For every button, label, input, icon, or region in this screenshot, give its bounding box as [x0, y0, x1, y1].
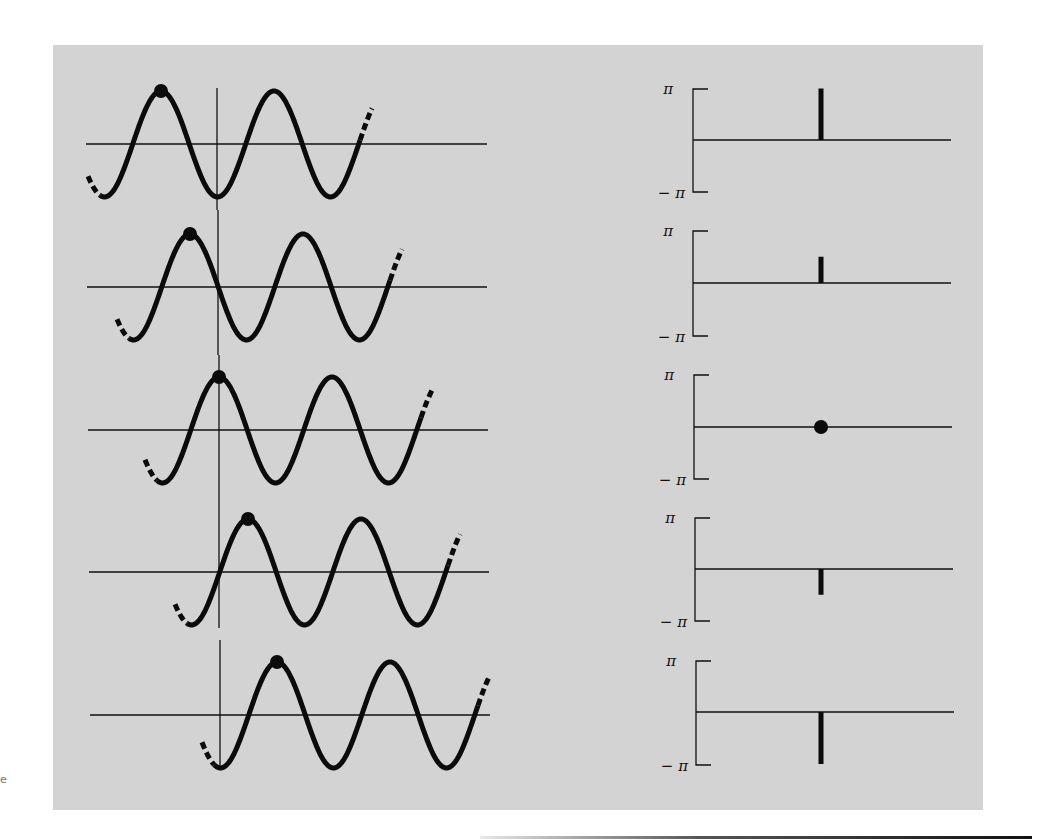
peak-marker-row-1 [154, 84, 168, 98]
phase-stem-row-1 [819, 88, 824, 140]
phase-label-pi-row-1: π [662, 80, 674, 98]
phase-label-neg-pi-row-4: − π [660, 613, 688, 631]
phase-stem-row-5 [819, 712, 824, 764]
phase-stem-row-4 [819, 569, 824, 595]
phase-stem-row-2 [819, 257, 824, 283]
peak-marker-row-3 [212, 370, 226, 384]
phase-shift-figure: π− ππ− ππ− ππ− ππ− π [0, 0, 1043, 840]
phase-marker-dot-row-3 [814, 420, 828, 434]
wave-start-dashed-row-4 [175, 604, 187, 623]
peak-marker-row-5 [270, 655, 284, 669]
wave-end-dashed-row-3 [421, 388, 433, 417]
wave-end-dashed-row-4 [448, 534, 460, 565]
phase-label-pi-row-5: π [665, 652, 677, 670]
wave-end-dashed-row-2 [390, 249, 402, 280]
phase-bracket-row-5 [696, 661, 711, 765]
phase-label-neg-pi-row-2: − π [658, 328, 686, 346]
wave-start-dashed-row-3 [145, 460, 157, 481]
peak-marker-row-4 [241, 512, 255, 526]
phase-label-pi-row-3: π [663, 366, 675, 384]
phase-label-pi-row-4: π [664, 509, 676, 527]
phase-label-neg-pi-row-1: − π [658, 184, 686, 202]
wave-start-dashed-row-2 [117, 319, 129, 338]
wave-end-dashed-row-5 [478, 675, 490, 705]
peak-marker-row-2 [183, 227, 197, 241]
phase-label-neg-pi-row-3: − π [659, 471, 687, 489]
wave-start-dashed-row-1 [88, 176, 100, 195]
wave-start-dashed-row-5 [202, 742, 214, 764]
wave-end-dashed-row-1 [360, 108, 372, 140]
phase-label-neg-pi-row-5: − π [661, 757, 689, 775]
phase-label-pi-row-2: π [662, 222, 674, 240]
